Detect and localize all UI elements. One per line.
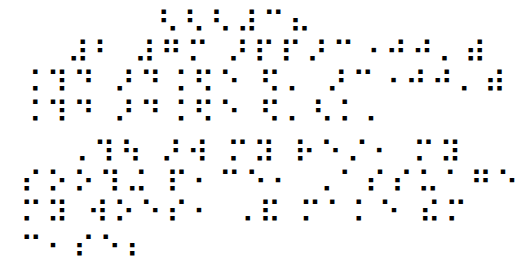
braille-line-4: ⠨⠹⠙ ⠜⠙⠨⠫⠑ ⠫⠄⠣⠅⠄	[20, 98, 391, 128]
braille-line-3: ⠨⠹⠙ ⠜⠙⠨⠫⠑ ⠫⠄ ⠜⠉⠐⠚⠚⠄⠾	[20, 68, 510, 98]
braille-line-1: ⠣⠣⠣⠼⠉⠦	[157, 8, 315, 38]
braille-line-7: ⠍⠽ ⠺⠕⠑⠎⠂ ⠠⠯ ⠍⠁⠅⠑ ⠮⠍	[20, 198, 471, 228]
braille-line-2: ⠼⠃ ⠼⠛⠍ ⠜⠏⠏⠜⠉⠐⠚⠚⠄⠾	[67, 38, 490, 68]
braille-line-6: ⠎⠕⠕⠹⠬ ⠏⠂⠉⠑⠂ ⠠⠁⠎⠎⠥⠁⠛⠑	[20, 168, 519, 198]
braille-line-5: ⠠⠹⠳ ⠜⠺ ⠍⠽ ⠗⠑⠌⠂ ⠍⠽	[67, 138, 466, 168]
braille-line-8: ⠉⠂⠎⠑⠆	[20, 233, 152, 263]
